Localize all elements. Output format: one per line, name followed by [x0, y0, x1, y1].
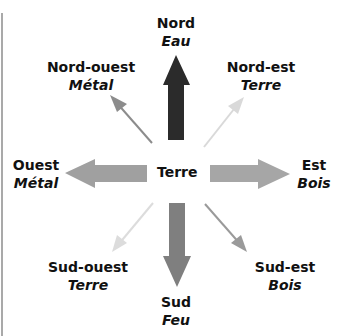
label-sud-ouest: Sud-ouest Terre	[38, 258, 138, 294]
element-name: Eau	[146, 32, 206, 50]
element-name: Bois	[245, 276, 325, 294]
element-name: Métal	[36, 76, 146, 94]
arrow-ouest	[65, 159, 147, 188]
label-nord: Nord Eau	[146, 14, 206, 50]
arrow-nord	[163, 55, 190, 140]
label-ouest: Ouest Métal	[8, 156, 64, 192]
direction-name: Sud-ouest	[38, 258, 138, 276]
arrow-sud-ouest	[112, 203, 153, 252]
element-name: Métal	[8, 174, 64, 192]
direction-name: Est	[290, 156, 337, 174]
direction-name: Sud	[148, 293, 204, 311]
arrow-sud	[163, 203, 191, 287]
direction-name: Nord	[146, 14, 206, 32]
element-name: Feu	[148, 311, 204, 329]
direction-name: Nord-ouest	[36, 58, 146, 76]
label-est: Est Bois	[290, 156, 337, 192]
element-name: Terre	[216, 76, 306, 94]
arrow-nord-est	[204, 97, 244, 147]
direction-name: Ouest	[8, 156, 64, 174]
label-nord-est: Nord-est Terre	[216, 58, 306, 94]
label-nord-ouest: Nord-ouest Métal	[36, 58, 146, 94]
element-name: Bois	[290, 174, 337, 192]
arrow-est	[210, 159, 290, 189]
label-sud: Sud Feu	[148, 293, 204, 329]
label-sud-est: Sud-est Bois	[245, 258, 325, 294]
direction-name: Nord-est	[216, 58, 306, 76]
arrow-sud-est	[205, 204, 247, 252]
element-name: Terre	[38, 276, 138, 294]
arrow-nord-ouest	[110, 95, 152, 143]
direction-name: Sud-est	[245, 258, 325, 276]
center-label: Terre	[157, 164, 198, 180]
